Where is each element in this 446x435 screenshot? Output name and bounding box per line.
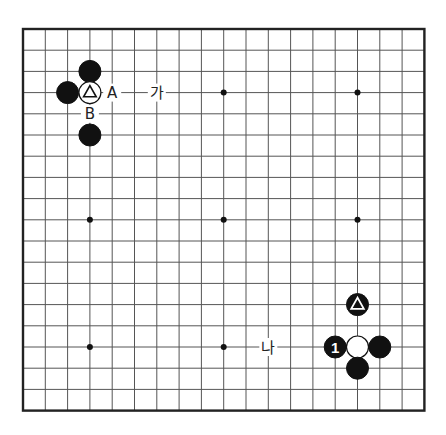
svg-text:나: 나 [261, 339, 275, 357]
star-point [221, 90, 227, 96]
star-point [221, 344, 227, 350]
stone-black [79, 124, 101, 146]
go-board: A가B나 1 [0, 0, 446, 435]
star-point [355, 217, 361, 223]
svg-text:가: 가 [150, 84, 164, 102]
move-number: 1 [331, 339, 339, 356]
point-label: 나 [259, 338, 277, 357]
point-label: B [81, 105, 99, 124]
star-point [355, 90, 361, 96]
svg-text:B: B [85, 105, 95, 123]
point-label: A [103, 84, 121, 103]
point-label: 가 [148, 84, 166, 103]
star-point [87, 217, 93, 223]
stone-black [57, 82, 79, 104]
star-point [221, 217, 227, 223]
svg-text:A: A [107, 84, 118, 102]
stone-black [369, 336, 391, 358]
stone-white [79, 82, 101, 104]
stone-white [347, 336, 369, 358]
stone-black: 1 [324, 336, 346, 358]
stone-black [347, 294, 369, 316]
stone-black [79, 60, 101, 82]
stone-black [347, 357, 369, 379]
star-point [87, 344, 93, 350]
